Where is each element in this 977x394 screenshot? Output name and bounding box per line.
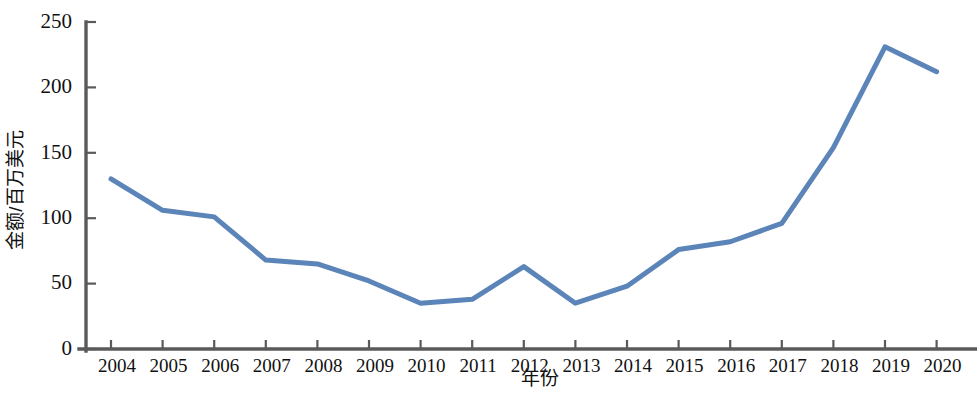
x-tick-label: 2009 xyxy=(356,355,394,376)
x-tick-label: 2010 xyxy=(408,355,446,376)
x-tick-label: 2014 xyxy=(614,355,653,376)
x-tick-label: 2020 xyxy=(924,355,962,376)
x-tick-label: 2008 xyxy=(304,355,342,376)
x-tick-label: 2013 xyxy=(562,355,600,376)
y-tick-label: 200 xyxy=(41,74,73,98)
x-tick-label: 2018 xyxy=(820,355,858,376)
y-tick-label: 150 xyxy=(41,140,73,164)
y-tick-label: 50 xyxy=(51,270,72,294)
y-axis-title: 金额/百万美元 xyxy=(5,130,26,249)
plot-background xyxy=(0,0,977,394)
x-tick-label: 2016 xyxy=(717,355,755,376)
y-tick-label: 0 xyxy=(62,336,73,360)
y-tick-label: 100 xyxy=(41,205,73,229)
x-tick-label: 2007 xyxy=(253,355,291,376)
x-tick-label: 2011 xyxy=(460,355,497,376)
x-tick-label: 2005 xyxy=(150,355,188,376)
x-tick-label: 2019 xyxy=(872,355,910,376)
x-tick-label: 2004 xyxy=(98,355,137,376)
y-tick-label: 250 xyxy=(41,9,73,33)
chart-canvas: 050100150200250 200420052006200720082009… xyxy=(0,0,977,394)
x-tick-label: 2015 xyxy=(666,355,704,376)
line-chart: 050100150200250 200420052006200720082009… xyxy=(0,0,977,394)
x-axis-title: 年份 xyxy=(521,368,559,389)
x-tick-label: 2006 xyxy=(201,355,239,376)
x-tick-label: 2017 xyxy=(769,355,807,376)
